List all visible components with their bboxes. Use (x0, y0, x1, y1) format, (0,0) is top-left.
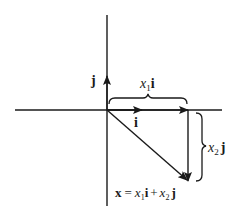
vector-equation: x=x1i+x2j (115, 185, 176, 202)
vector-diagram: j i x1i x2j x=x1i+x2j (0, 0, 240, 220)
brace-x2j (196, 113, 206, 181)
x2j-label: x2j (207, 140, 225, 157)
brace-x1i (109, 94, 187, 104)
j-axis-label: j (90, 73, 96, 88)
resultant-vector-arrow (107, 110, 187, 180)
x1i-label: x1i (139, 76, 155, 93)
i-axis-label: i (134, 115, 138, 130)
